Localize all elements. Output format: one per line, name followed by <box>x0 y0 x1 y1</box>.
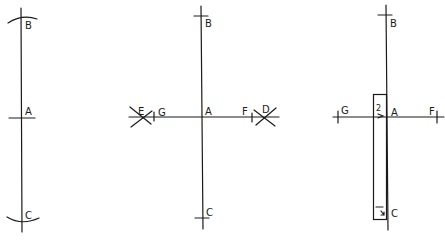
fig1-label-c: C <box>25 210 32 221</box>
fig3-label-a: A <box>391 107 398 118</box>
fig1-arc-top <box>8 17 37 23</box>
fig3-label-b: B <box>390 18 397 29</box>
figure-3: B A C G F 2 <box>333 5 444 230</box>
fig2-label-b: B <box>205 18 212 29</box>
fig2-label-g: G <box>158 107 166 118</box>
fig1-vertical-line <box>21 8 22 232</box>
fig1-label-b: B <box>25 20 32 31</box>
fig2-label-c: C <box>206 207 213 218</box>
fig2-label-f: F <box>242 106 248 117</box>
fig2-label-a: A <box>205 106 212 117</box>
fig2-label-e: E <box>138 106 144 117</box>
fig1-label-a: A <box>25 106 32 117</box>
construction-diagram: B A C B A C E G F D B A <box>0 0 445 245</box>
fig3-square <box>374 95 387 220</box>
fig3-label-g: G <box>341 105 349 116</box>
fig3-arrow-mark-bottom <box>381 211 384 215</box>
fig3-label-f: F <box>429 106 435 117</box>
fig3-label-c: C <box>391 208 398 219</box>
fig3-square-label-top: 2 <box>376 104 381 113</box>
figure-2: B A C E G F D <box>129 6 279 229</box>
fig2-label-d: D <box>262 104 270 115</box>
fig1-arc-bottom <box>7 217 39 222</box>
figure-1: B A C <box>7 8 39 232</box>
